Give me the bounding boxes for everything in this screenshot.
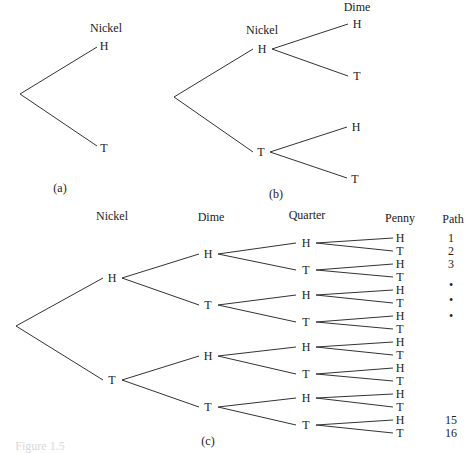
node-penny-t: T: [396, 349, 403, 361]
branch-c-penny-11: [316, 374, 393, 381]
header-path: Path: [442, 213, 463, 225]
branch-a-t: [20, 94, 97, 146]
node-quarter-h: H: [302, 237, 311, 249]
branch-c-penny-13: [316, 398, 393, 407]
path-label-4: •: [449, 294, 453, 306]
branch-c-penny-8: [316, 342, 393, 347]
branch-c-penny-0: [316, 238, 393, 243]
branch-b-hh: [272, 24, 348, 49]
branch-b-tt: [270, 152, 347, 178]
branch-c-penny-9: [316, 347, 393, 355]
branch-a-h: [20, 47, 97, 94]
node-nickel-t: T: [108, 374, 115, 386]
node-quarter-h: H: [302, 341, 311, 353]
header-nickel-b: Nickel: [246, 24, 278, 36]
path-label-6: 15: [445, 414, 457, 426]
node-penny-t: T: [396, 375, 403, 387]
node-a-t: T: [100, 142, 107, 154]
branch-c-dime-3: [122, 380, 199, 407]
branch-c-quarter-5: [218, 356, 296, 374]
branch-c-dime-2: [122, 356, 199, 380]
node-dime-h: H: [204, 350, 213, 362]
branch-c-penny-12: [316, 394, 393, 398]
node-penny-h: H: [396, 414, 405, 426]
node-penny-t: T: [396, 401, 403, 413]
header-dime: Dime: [198, 211, 225, 223]
branch-c-nickel-0: [16, 278, 103, 326]
node-dime-t: T: [204, 401, 211, 413]
branch-c-quarter-4: [218, 347, 296, 356]
branch-c-quarter-0: [218, 243, 296, 254]
caption-c: (c): [201, 435, 214, 447]
caption-b: (b): [269, 188, 283, 200]
node-penny-t: T: [396, 323, 403, 335]
node-b-hh: H: [353, 18, 362, 30]
node-penny-h: H: [396, 258, 405, 270]
node-quarter-h: H: [302, 289, 311, 301]
node-penny-h: H: [396, 336, 405, 348]
branch-c-penny-10: [316, 368, 393, 374]
header-quarter: Quarter: [289, 209, 326, 221]
node-penny-t: T: [396, 271, 403, 283]
node-penny-h: H: [396, 232, 405, 244]
branch-b-th: [270, 127, 347, 152]
path-label-3: •: [449, 279, 453, 291]
node-penny-t: T: [396, 245, 403, 257]
branch-c-penny-5: [316, 295, 393, 303]
branch-c-penny-3: [316, 270, 393, 277]
branch-c-dime-0: [122, 254, 199, 278]
branch-c-penny-7: [316, 322, 393, 329]
node-penny-t: T: [396, 427, 403, 439]
node-b-tt: T: [351, 173, 358, 185]
branch-b-t: [174, 97, 253, 152]
node-dime-h: H: [204, 248, 213, 260]
node-quarter-h: H: [302, 392, 311, 404]
branch-c-penny-6: [316, 316, 393, 322]
branch-c-quarter-1: [218, 254, 296, 270]
node-b-ht: T: [353, 70, 360, 82]
node-penny-h: H: [396, 284, 405, 296]
node-dime-t: T: [204, 299, 211, 311]
path-label-7: 16: [445, 427, 457, 439]
node-nickel-h: H: [108, 272, 117, 284]
path-label-2: 3: [448, 258, 454, 270]
node-penny-h: H: [396, 310, 405, 322]
branch-b-h: [174, 49, 253, 97]
header-nickel-a: Nickel: [90, 22, 122, 34]
branch-c-quarter-2: [218, 295, 296, 305]
node-b-h: H: [258, 43, 267, 55]
branch-c-quarter-3: [218, 305, 296, 322]
node-a-h: H: [100, 40, 109, 52]
branch-c-nickel-1: [16, 326, 103, 380]
header-dime-b: Dime: [344, 1, 371, 13]
header-penny: Penny: [385, 212, 415, 224]
branch-c-quarter-7: [218, 407, 296, 425]
branch-c-dime-1: [122, 278, 199, 305]
branch-c-penny-2: [316, 264, 393, 270]
node-penny-h: H: [396, 362, 405, 374]
node-penny-t: T: [396, 297, 403, 309]
caption-a: (a): [53, 182, 66, 194]
header-nickel: Nickel: [96, 210, 128, 222]
path-label-1: 2: [448, 245, 454, 257]
branch-c-penny-1: [316, 243, 393, 251]
node-quarter-t: T: [302, 264, 309, 276]
node-quarter-t: T: [302, 368, 309, 380]
path-label-5: •: [449, 310, 453, 322]
path-label-0: 1: [448, 232, 454, 244]
figure-caption: Figure 1.5: [15, 440, 64, 452]
branch-c-quarter-6: [218, 398, 296, 407]
node-b-th: H: [352, 121, 361, 133]
branch-b-ht: [272, 49, 348, 76]
node-penny-h: H: [396, 388, 405, 400]
node-b-t: T: [257, 146, 264, 158]
branch-c-penny-4: [316, 290, 393, 295]
branch-c-penny-15: [316, 425, 393, 433]
node-quarter-t: T: [302, 419, 309, 431]
node-quarter-t: T: [302, 316, 309, 328]
branch-c-penny-14: [316, 420, 393, 425]
